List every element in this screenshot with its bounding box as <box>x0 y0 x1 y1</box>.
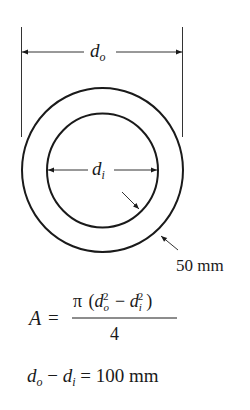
wall-thickness-label: 50 mm <box>176 256 224 275</box>
inner-diameter-dimension: di <box>48 158 157 182</box>
formula-lhs: A <box>27 307 42 329</box>
difference-equation: do − di = 100 mm <box>27 365 159 390</box>
wall-arrow-inner <box>122 192 139 209</box>
area-formula: A = π (do2 − di2) 4 <box>27 284 177 344</box>
difference-equation-text: do − di = 100 mm <box>27 365 159 390</box>
outer-diameter-dimension: do <box>22 40 182 64</box>
outer-diameter-label: do <box>90 40 106 64</box>
wall-thickness-dimension: 50 mm <box>122 192 224 275</box>
inner-diameter-label: di <box>92 158 105 182</box>
formula-denominator: 4 <box>110 324 119 344</box>
formula-equals: = <box>48 307 59 328</box>
tube-cross-section-diagram: do di 50 mm A = π (do2 − di2) 4 do − <box>0 0 250 410</box>
wall-arrow-outer <box>161 236 178 250</box>
formula-numerator: π (do2 − di2) <box>73 284 152 313</box>
